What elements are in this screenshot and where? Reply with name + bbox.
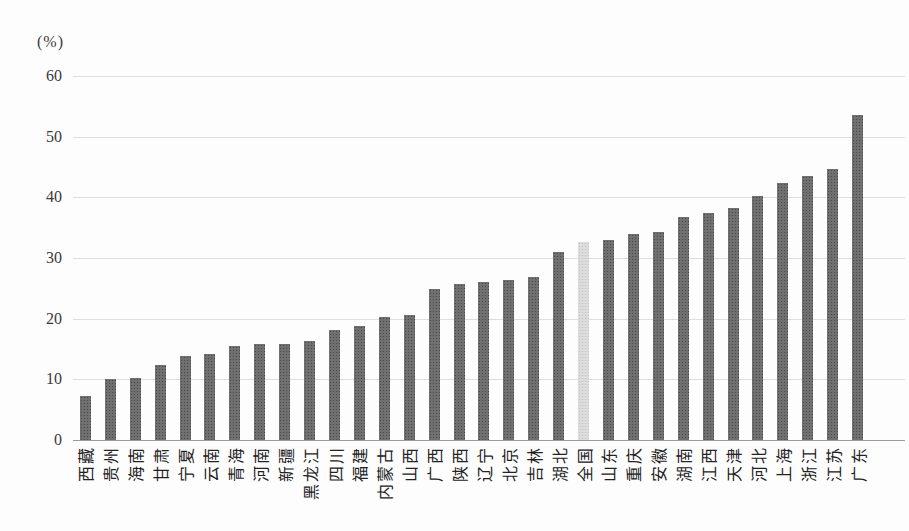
bar-chart-figure: (%) 0102030405060 西藏贵州海南甘肃宁夏云南青海河南新疆黑龙江四… [0, 0, 909, 531]
x-label-cell: 云南 [198, 442, 223, 531]
x-label-cell: 福建 [347, 442, 372, 531]
x-label-广东: 广东 [846, 446, 870, 482]
x-label-cell: 安徽 [646, 442, 671, 531]
x-label-cell: 全国 [571, 442, 596, 531]
x-label-安徽: 安徽 [646, 446, 670, 482]
x-label-cell: 新疆 [272, 442, 297, 531]
bar-column [571, 76, 596, 440]
x-label-黑龙江: 黑龙江 [298, 446, 322, 500]
bar-山东 [603, 240, 614, 440]
x-label-浙江: 浙江 [796, 446, 820, 482]
bar-column [98, 76, 123, 440]
bar-海南 [130, 378, 141, 440]
bar-黑龙江 [304, 341, 315, 440]
y-tick-label-50: 50 [0, 128, 62, 146]
plot-area [73, 76, 905, 441]
x-label-cell: 陕西 [447, 442, 472, 531]
bar-甘肃 [155, 365, 166, 440]
x-label-cell: 江苏 [820, 442, 845, 531]
x-label-cell: 辽宁 [472, 442, 497, 531]
x-label-新疆: 新疆 [273, 446, 297, 482]
bar-江苏 [827, 169, 838, 440]
x-label-cell: 河北 [745, 442, 770, 531]
bar-column [297, 76, 322, 440]
x-label-湖南: 湖南 [671, 446, 695, 482]
x-label-山东: 山东 [596, 446, 620, 482]
x-label-cell: 贵州 [98, 442, 123, 531]
bar-广西 [429, 289, 440, 440]
bar-西藏 [80, 396, 91, 440]
x-label-重庆: 重庆 [621, 446, 645, 482]
x-label-吉林: 吉林 [522, 446, 546, 482]
bar-column [496, 76, 521, 440]
bar-新疆 [279, 344, 290, 440]
bar-column [322, 76, 347, 440]
x-label-cell: 山东 [596, 442, 621, 531]
bar-column [73, 76, 98, 440]
x-label-海南: 海南 [123, 446, 147, 482]
bar-河北 [752, 196, 763, 440]
x-label-cell: 浙江 [795, 442, 820, 531]
y-tick-label-10: 10 [0, 370, 62, 388]
bar-column [447, 76, 472, 440]
bar-辽宁 [478, 282, 489, 440]
bar-column [272, 76, 297, 440]
x-label-cell: 江西 [696, 442, 721, 531]
x-label-上海: 上海 [771, 446, 795, 482]
x-label-cell: 山西 [397, 442, 422, 531]
bars-group [73, 76, 870, 440]
x-label-cell: 天津 [721, 442, 746, 531]
bar-column [646, 76, 671, 440]
bar-column [397, 76, 422, 440]
x-label-湖北: 湖北 [547, 446, 571, 482]
bar-贵州 [105, 379, 116, 440]
bar-上海 [777, 183, 788, 440]
bar-安徽 [653, 232, 664, 440]
x-label-四川: 四川 [323, 446, 347, 482]
x-label-cell: 宁夏 [173, 442, 198, 531]
bar-column [671, 76, 696, 440]
bar-column [247, 76, 272, 440]
x-label-山西: 山西 [397, 446, 421, 482]
x-label-江西: 江西 [696, 446, 720, 482]
bar-column [795, 76, 820, 440]
x-label-cell: 吉林 [521, 442, 546, 531]
bar-山西 [404, 315, 415, 440]
y-tick-label-60: 60 [0, 67, 62, 85]
bar-重庆 [628, 234, 639, 440]
bar-福建 [354, 326, 365, 440]
x-label-江苏: 江苏 [821, 446, 845, 482]
bar-内蒙古 [379, 317, 390, 440]
x-label-cell: 重庆 [621, 442, 646, 531]
y-tick-label-0: 0 [0, 431, 62, 449]
x-label-cell: 西藏 [73, 442, 98, 531]
x-label-cell: 甘肃 [148, 442, 173, 531]
bar-column [845, 76, 870, 440]
bar-column [546, 76, 571, 440]
x-label-西藏: 西藏 [73, 446, 97, 482]
bar-全国 [578, 242, 589, 440]
x-label-内蒙古: 内蒙古 [372, 446, 396, 500]
x-label-陕西: 陕西 [447, 446, 471, 482]
bar-青海 [229, 346, 240, 440]
bar-column [173, 76, 198, 440]
x-label-贵州: 贵州 [98, 446, 122, 482]
x-label-cell: 内蒙古 [372, 442, 397, 531]
x-label-北京: 北京 [497, 446, 521, 482]
bar-北京 [503, 280, 514, 440]
bar-吉林 [528, 277, 539, 440]
bar-云南 [204, 354, 215, 440]
x-label-宁夏: 宁夏 [173, 446, 197, 482]
bar-column [820, 76, 845, 440]
bar-column [721, 76, 746, 440]
x-label-甘肃: 甘肃 [148, 446, 172, 482]
bar-column [347, 76, 372, 440]
y-axis: 0102030405060 [0, 0, 68, 531]
x-label-辽宁: 辽宁 [472, 446, 496, 482]
x-axis-labels: 西藏贵州海南甘肃宁夏云南青海河南新疆黑龙江四川福建内蒙古山西广西陕西辽宁北京吉林… [73, 442, 870, 531]
x-label-天津: 天津 [721, 446, 745, 482]
bar-宁夏 [180, 356, 191, 440]
bar-column [198, 76, 223, 440]
y-tick-label-20: 20 [0, 310, 62, 328]
x-label-全国: 全国 [572, 446, 596, 482]
